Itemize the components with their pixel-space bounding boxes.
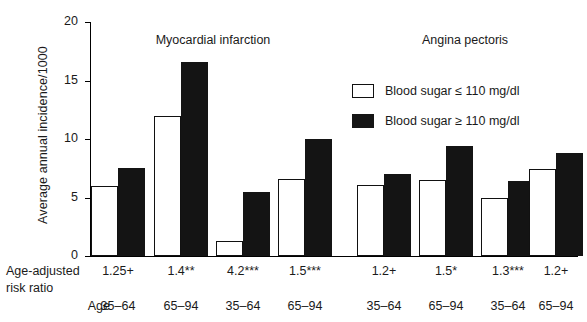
x-axis-line — [90, 256, 578, 257]
panel-title-left: Myocardial infarction — [108, 33, 318, 47]
bar-light-group-7 — [481, 198, 508, 257]
age-value-8: 65–94 — [516, 299, 587, 313]
risk-ratio-value-8: 1.2+ — [516, 264, 587, 278]
y-axis-label: Average annual incidence/1000 — [36, 30, 50, 240]
legend-item-high[interactable]: Blood sugar ≥ 110 mg/dl — [352, 110, 520, 132]
risk-ratio-label-line2: risk ratio — [6, 281, 110, 295]
legend-label-low: Blood sugar ≤ 110 mg/dl — [385, 84, 520, 98]
y-tick-label-5: 5 — [52, 191, 78, 204]
bar-light-group-1 — [91, 186, 118, 256]
bar-dark-group-6 — [446, 146, 473, 256]
bar-light-group-4 — [278, 179, 305, 256]
y-tick-label-20: 20 — [52, 15, 78, 28]
y-tick-label-10: 10 — [52, 132, 78, 145]
legend-label-high: Blood sugar ≥ 110 mg/dl — [385, 114, 520, 128]
bar-dark-group-1 — [118, 168, 145, 256]
bar-dark-group-8 — [556, 153, 583, 256]
legend-swatch-light-icon — [352, 84, 374, 98]
y-tick-label-15: 15 — [52, 74, 78, 87]
bar-light-group-5 — [357, 185, 384, 256]
age-value-4: 65–94 — [265, 299, 345, 313]
bar-dark-group-4 — [305, 139, 332, 256]
bar-dark-group-2 — [181, 62, 208, 256]
bar-light-group-8 — [529, 169, 556, 256]
legend: Blood sugar ≤ 110 mg/dl Blood sugar ≥ 11… — [352, 80, 520, 132]
risk-ratio-value-4: 1.5*** — [265, 264, 345, 278]
y-tick-label-0: 0 — [52, 249, 78, 262]
panel-title-right: Angina pectoris — [375, 33, 555, 47]
bar-light-group-3 — [216, 241, 243, 256]
bar-dark-group-5 — [384, 174, 411, 256]
bar-light-group-2 — [154, 116, 181, 256]
legend-item-low[interactable]: Blood sugar ≤ 110 mg/dl — [352, 80, 520, 102]
chart-figure: Average annual incidence/1000 20151050 M… — [0, 0, 587, 322]
bar-light-group-6 — [419, 180, 446, 256]
legend-swatch-dark-icon — [352, 114, 374, 128]
bar-dark-group-3 — [243, 192, 270, 256]
